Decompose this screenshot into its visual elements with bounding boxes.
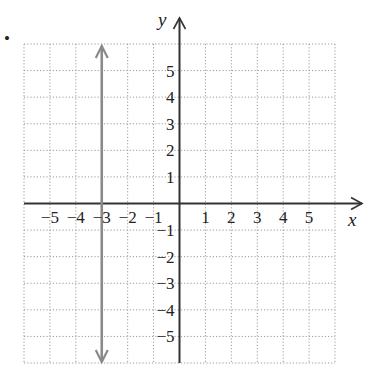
y-tick-label: 3 [166, 115, 175, 134]
axes [24, 18, 362, 363]
y-tick-label: −5 [156, 327, 174, 346]
x-tick-label: 1 [201, 208, 210, 227]
x-tick-label: −2 [119, 208, 137, 227]
x-tick-label: −3 [93, 208, 111, 227]
x-tick-label: 5 [305, 208, 314, 227]
y-tick-label: 4 [166, 88, 175, 107]
x-axis-label: x [347, 209, 357, 230]
y-tick-label: −2 [156, 248, 174, 267]
x-tick-labels: −5−4−3−2−112345 [41, 208, 313, 227]
x-tick-label: −5 [41, 208, 59, 227]
y-tick-label: −3 [156, 274, 174, 293]
x-tick-label: 4 [279, 208, 288, 227]
x-tick-label: 2 [227, 208, 236, 227]
bullet-marker: • [4, 29, 10, 48]
y-axis-label: y [156, 9, 167, 30]
y-tick-label: 2 [166, 141, 175, 160]
y-tick-label: 1 [166, 168, 175, 187]
y-tick-label: 5 [166, 62, 175, 81]
y-tick-label: −1 [156, 221, 174, 240]
x-tick-label: −4 [67, 208, 86, 227]
x-tick-label: 3 [253, 208, 262, 227]
coordinate-plane: • −5−4−3−2−112345 54321−1−2−3−4−5 x y [0, 0, 380, 386]
y-tick-label: −4 [156, 301, 175, 320]
